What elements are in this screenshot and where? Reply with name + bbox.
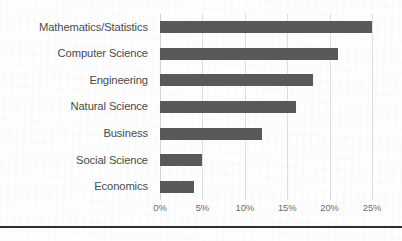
category-label: Mathematics/Statistics xyxy=(0,21,155,34)
x-axis-tick-labels: 0%5%10%15%20%25% xyxy=(160,202,372,214)
x-tick-label: 15% xyxy=(278,202,296,213)
bar xyxy=(160,21,372,33)
category-label: Engineering xyxy=(0,74,155,87)
bar xyxy=(160,128,262,140)
bar-series xyxy=(160,14,372,200)
bar xyxy=(160,154,202,166)
plot-area xyxy=(160,14,372,200)
bar xyxy=(160,48,338,60)
category-label: Economics xyxy=(0,180,155,193)
bar-row xyxy=(160,14,372,40)
bottom-divider-rule xyxy=(0,226,402,228)
category-label: Natural Science xyxy=(0,100,155,113)
bar-row xyxy=(160,67,372,93)
bar xyxy=(160,181,194,193)
bar xyxy=(160,74,313,86)
gridline xyxy=(372,14,373,200)
horizontal-bar-chart: Mathematics/StatisticsComputer ScienceEn… xyxy=(0,0,402,214)
chart-page: Mathematics/StatisticsComputer ScienceEn… xyxy=(0,0,402,241)
category-label: Social Science xyxy=(0,154,155,167)
x-tick-label: 20% xyxy=(320,202,338,213)
category-label: Computer Science xyxy=(0,47,155,60)
bar-row xyxy=(160,174,372,200)
x-tick-label: 10% xyxy=(236,202,254,213)
bar-row xyxy=(160,41,372,67)
bar-row xyxy=(160,147,372,173)
category-axis-labels: Mathematics/StatisticsComputer ScienceEn… xyxy=(0,14,155,200)
bar xyxy=(160,101,296,113)
category-label: Business xyxy=(0,127,155,140)
x-tick-label: 5% xyxy=(196,202,209,213)
x-tick-label: 25% xyxy=(363,202,381,213)
bar-row xyxy=(160,94,372,120)
bar-row xyxy=(160,121,372,147)
x-tick-label: 0% xyxy=(153,202,166,213)
